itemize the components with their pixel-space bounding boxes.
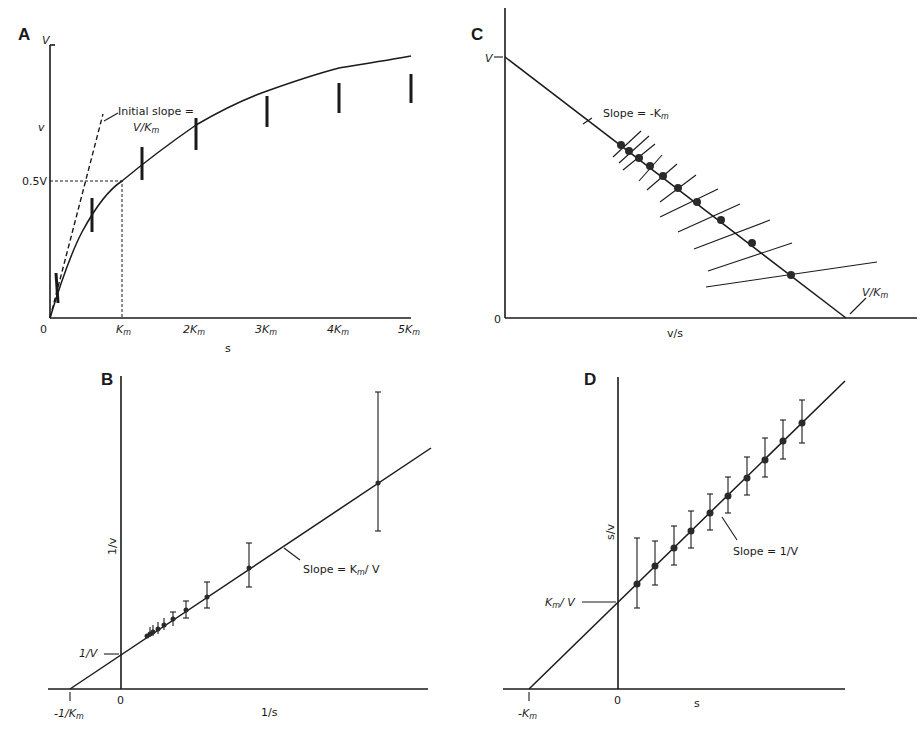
data-points (145, 392, 382, 639)
slope-label: Slope = -Km (603, 107, 669, 121)
tick-5km: 5Km (398, 323, 420, 337)
intercept-label: Km/ V (545, 596, 576, 610)
panel-letter-c: C (471, 25, 483, 44)
slope-label: Slope = Km/ V (303, 563, 380, 577)
tick-km: Km (116, 323, 131, 337)
x-tick-labels: Km 2Km 3Km 4Km 5Km (116, 323, 420, 337)
origin-label: 0 (117, 694, 124, 707)
half-v-guide (50, 181, 122, 318)
panel-letter-d: D (584, 370, 596, 389)
y-axis-label: v (38, 121, 45, 134)
y-axis-label: s/v (604, 524, 617, 540)
x-axis-label: v/s (667, 327, 683, 340)
x-intercept-label: -1/Km (54, 707, 84, 721)
panel-b: B 1/v 1/V 0 -1/Km 1/s Slope = Km/ V (48, 370, 431, 721)
x-axis-label: s (225, 342, 231, 355)
half-v-label: 0.5V (22, 175, 47, 188)
error-bars (56, 74, 411, 303)
tick-2km: 2Km (183, 323, 205, 337)
x-intercept-label: V/Km (862, 286, 888, 300)
x-axis-label: 1/s (261, 706, 278, 719)
intercept-label: 1/V (79, 647, 99, 660)
regression-line (529, 381, 845, 689)
x-axis-label: s (694, 697, 700, 710)
slope-label: Slope = 1/V (733, 545, 798, 558)
origin-label: 0 (614, 694, 621, 707)
x-intercept-label: -Km (518, 707, 537, 721)
panel-a: A V v 0.5V 0 Km 2Km 3Km 4Km 5Km s Initia… (18, 25, 420, 355)
slope-arrow (284, 548, 300, 560)
tick-3km: 3Km (255, 323, 277, 337)
michaelis-menten-curve (50, 56, 411, 318)
panel-letter-b: B (101, 370, 113, 389)
initial-slope-label: Initial slope = (118, 105, 194, 118)
slope-arrow (722, 517, 737, 540)
annotation-arrow (104, 113, 118, 121)
panel-letter-a: A (18, 25, 30, 44)
panel-c: C V 0 v/s Slope = -Km V/Km (471, 8, 917, 340)
x-intercept-arrow (850, 298, 866, 314)
tick-4km: 4Km (327, 323, 349, 337)
data-points (613, 131, 877, 287)
initial-slope-value: V/Km (133, 121, 159, 135)
enzyme-kinetics-figure: A V v 0.5V 0 Km 2Km 3Km 4Km 5Km s Initia… (0, 0, 921, 735)
panel-d: D s/v Km/ V 0 -Km s Slope = 1/V (503, 370, 845, 721)
y-intercept-label: V (485, 52, 494, 65)
origin-label: 0 (494, 313, 501, 326)
origin-label: 0 (40, 323, 47, 336)
y-axis-label: 1/v (106, 537, 119, 555)
